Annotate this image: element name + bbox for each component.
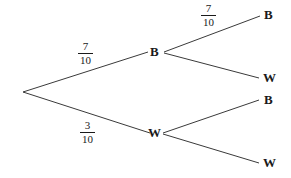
fraction-numerator: 7 [201, 3, 216, 15]
branch-b-to-w [164, 53, 259, 78]
probability-label-second-b: 7 10 [201, 3, 216, 28]
node-label-b-first-draw: B [150, 45, 159, 58]
branch-w-to-b [163, 100, 259, 133]
fraction-numerator: 7 [78, 41, 93, 53]
fraction-denominator: 10 [80, 133, 95, 145]
node-label-b-second-draw-upper: B [264, 8, 273, 21]
probability-label-first-w: 3 10 [80, 120, 95, 145]
node-label-w-first-draw: W [148, 126, 161, 139]
probability-label-first-b: 7 10 [78, 41, 93, 66]
tree-diagram-canvas: B W B W B W 7 10 3 10 7 10 [0, 0, 291, 178]
fraction-denominator: 10 [201, 16, 216, 28]
fraction-denominator: 10 [78, 54, 93, 66]
node-label-b-second-draw-lower: B [264, 93, 273, 106]
node-label-w-second-draw-lower: W [263, 156, 276, 169]
tree-branch-lines [0, 0, 291, 178]
fraction-numerator: 3 [80, 120, 95, 132]
branch-w-to-w [163, 134, 259, 163]
node-label-w-second-draw-upper: W [263, 71, 276, 84]
